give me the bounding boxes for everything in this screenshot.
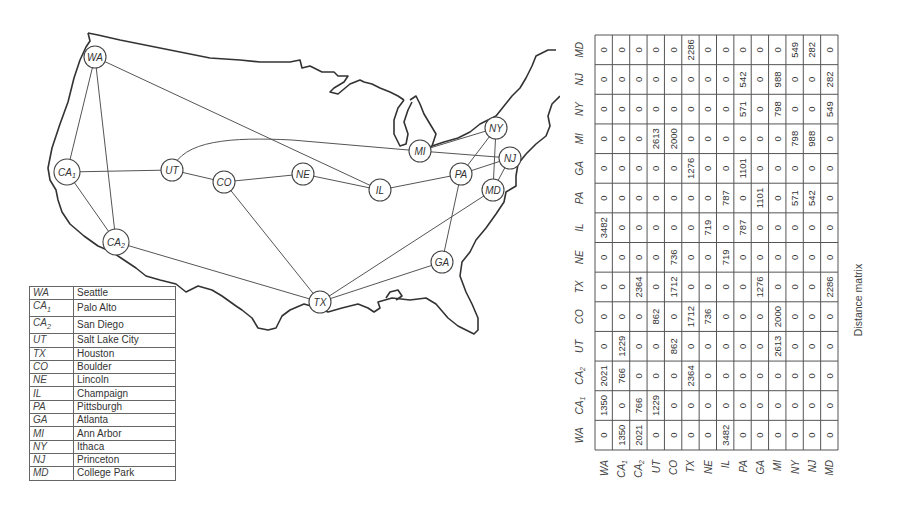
- matrix-row-label: CA1: [616, 460, 628, 478]
- matrix-cell: 1229: [616, 336, 627, 357]
- legend-code: IL: [30, 387, 74, 400]
- node-ca1: CA1: [54, 159, 80, 185]
- matrix-cell: 0: [616, 314, 627, 319]
- matrix-row-label: NJ: [806, 459, 817, 472]
- matrix-cell: 719: [720, 249, 731, 265]
- matrix-cell: 0: [824, 195, 835, 200]
- matrix-cell: 0: [806, 373, 817, 378]
- matrix-cell: 0: [633, 195, 644, 200]
- matrix-cell: 0: [685, 255, 696, 260]
- matrix-cell: 0: [633, 255, 644, 260]
- legend-code: CO: [30, 360, 74, 373]
- matrix-cell: 736: [702, 309, 713, 325]
- matrix-cell: 0: [737, 195, 748, 200]
- matrix-cell: 0: [633, 136, 644, 141]
- matrix-cell: 0: [772, 166, 783, 171]
- matrix-column-label: CO: [574, 309, 585, 324]
- matrix-cell: 0: [737, 403, 748, 408]
- node-nj: NJ: [499, 147, 521, 169]
- matrix-cell: 0: [824, 433, 835, 438]
- matrix-cell: 0: [737, 284, 748, 289]
- matrix-cell: 0: [668, 77, 679, 82]
- matrix-cell: 0: [737, 314, 748, 319]
- matrix-cell: 0: [806, 225, 817, 230]
- matrix-cell: 0: [737, 136, 748, 141]
- matrix-column-label: MI: [574, 133, 585, 144]
- matrix-row-label: CO: [668, 460, 679, 475]
- matrix-cell: 0: [685, 403, 696, 408]
- matrix-cell: 0: [685, 344, 696, 349]
- node-ne: NE: [292, 163, 314, 185]
- node-label: TX: [314, 297, 327, 308]
- edge-wa-ca1: [67, 57, 95, 172]
- matrix-cell: 542: [806, 190, 817, 206]
- matrix-cell: 0: [824, 373, 835, 378]
- matrix-cell: 0: [685, 106, 696, 111]
- matrix-cell: 0: [616, 403, 627, 408]
- matrix-cell: 0: [668, 195, 679, 200]
- legend-city: Seattle: [74, 287, 176, 300]
- matrix-cell: 0: [616, 47, 627, 52]
- edge-pa-ga: [442, 174, 461, 262]
- matrix-cell: 0: [789, 433, 800, 438]
- matrix-row-label: NY: [789, 459, 800, 474]
- node-label: MI: [414, 146, 425, 157]
- node-ga: GA: [431, 251, 453, 273]
- matrix-cell: 2000: [772, 306, 783, 327]
- matrix-cell: 0: [720, 106, 731, 111]
- matrix-cell: 0: [772, 136, 783, 141]
- matrix-cell: 0: [702, 373, 713, 378]
- legend-code: NY: [30, 440, 74, 453]
- matrix-cell: 0: [633, 77, 644, 82]
- node-ut: UT: [161, 159, 183, 181]
- matrix-cell: 571: [789, 190, 800, 206]
- node-il: IL: [369, 179, 391, 201]
- matrix-cell: 0: [720, 47, 731, 52]
- matrix-cell: 0: [685, 433, 696, 438]
- matrix-cell: 0: [754, 136, 765, 141]
- matrix-cell: 0: [806, 77, 817, 82]
- matrix-cell: 0: [720, 344, 731, 349]
- matrix-cell: 0: [789, 403, 800, 408]
- matrix-cell: 0: [806, 403, 817, 408]
- matrix-cell: 0: [702, 433, 713, 438]
- matrix-cell: 0: [616, 77, 627, 82]
- matrix-column-label: GA: [574, 161, 585, 176]
- edge-wa-ca2: [95, 57, 116, 242]
- matrix-cell: 0: [720, 225, 731, 230]
- node-ny: NY: [485, 117, 507, 139]
- node-pa: PA: [450, 163, 472, 185]
- matrix-cell: 719: [702, 220, 713, 236]
- matrix-cell: 0: [789, 314, 800, 319]
- matrix-cell: 0: [668, 433, 679, 438]
- matrix-cell: 571: [737, 101, 748, 117]
- matrix-cell: 0: [772, 373, 783, 378]
- matrix-row-label: PA: [737, 460, 748, 473]
- legend-row: GAAtlanta: [30, 414, 176, 427]
- matrix-cell: 0: [668, 373, 679, 378]
- matrix-cell: 3482: [598, 217, 609, 238]
- matrix-cell: 0: [754, 47, 765, 52]
- legend-code: CA2: [30, 317, 74, 334]
- node-label: NJ: [504, 153, 517, 164]
- matrix-cell: 787: [720, 190, 731, 206]
- matrix-cell: 0: [789, 166, 800, 171]
- matrix-cell: 0: [720, 314, 731, 319]
- matrix-column-label: NJ: [574, 72, 585, 85]
- matrix-cell: 0: [772, 195, 783, 200]
- legend-city: Champaign: [74, 387, 176, 400]
- matrix-cell: 0: [616, 195, 627, 200]
- matrix-cell: 0: [737, 255, 748, 260]
- network-nodes: WACA1CA2UTCONEILMINYNJPAMDGATX: [54, 46, 521, 313]
- node-label: GA: [435, 257, 450, 268]
- legend-city: Palo Alto: [74, 300, 176, 317]
- matrix-cell: 0: [650, 344, 661, 349]
- matrix-cell: 0: [702, 106, 713, 111]
- matrix-cell: 766: [616, 368, 627, 384]
- matrix-cell: 1229: [650, 395, 661, 416]
- matrix-cell: 0: [789, 255, 800, 260]
- matrix-cell: 0: [633, 373, 644, 378]
- matrix-cell: 0: [806, 284, 817, 289]
- matrix-row-label: MI: [772, 460, 783, 471]
- edge-il-pa: [380, 174, 461, 190]
